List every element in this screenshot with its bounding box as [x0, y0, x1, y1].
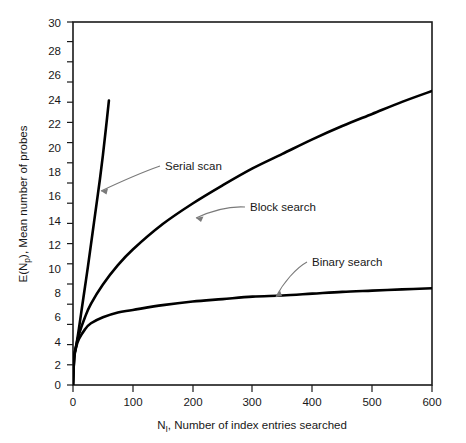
figure-container: 0 2 4 6 8 10 12 14 16 18 20 22 24 26 28 … — [0, 0, 466, 443]
y-tick-label: 0 — [55, 379, 61, 391]
y-tick-label: 26 — [48, 69, 61, 81]
x-tick-label: 100 — [123, 396, 142, 408]
x-tick-label: 600 — [422, 396, 441, 408]
annotation-label-binary-search: Binary search — [312, 256, 382, 268]
x-axis-title-rest: , Number of index entries searched — [168, 419, 347, 431]
x-tick-label: 0 — [70, 396, 76, 408]
chart-background — [0, 0, 466, 443]
search-probes-line-chart: 0 2 4 6 8 10 12 14 16 18 20 22 24 26 28 … — [0, 0, 466, 443]
y-tick-label: 14 — [48, 215, 61, 227]
y-tick-label: 22 — [48, 118, 61, 130]
y-tick-label: 10 — [48, 263, 61, 275]
annotation-label-block-search: Block search — [250, 201, 316, 213]
y-tick-label: 2 — [55, 359, 61, 371]
y-tick-label: 8 — [55, 287, 61, 299]
y-axis-title-symbol: E(N — [17, 263, 29, 283]
y-tick-label: 24 — [48, 94, 61, 106]
x-tick-label: 400 — [302, 396, 321, 408]
y-tick-label: 12 — [48, 239, 61, 251]
x-tick-label: 200 — [183, 396, 202, 408]
y-axis-title-rest: ), Mean number of probes — [17, 125, 29, 258]
y-tick-label: 20 — [48, 142, 61, 154]
y-tick-label: 28 — [48, 45, 61, 57]
x-tick-label: 500 — [362, 396, 381, 408]
y-tick-label: 18 — [48, 166, 61, 178]
annotation-label-serial-scan: Serial scan — [165, 160, 222, 172]
y-tick-label: 16 — [48, 190, 61, 202]
x-axis-title-symbol: N — [157, 419, 165, 431]
y-tick-label: 4 — [55, 336, 62, 348]
y-tick-label: 30 — [48, 17, 61, 29]
y-tick-label: 6 — [55, 311, 61, 323]
x-tick-label: 300 — [242, 396, 261, 408]
